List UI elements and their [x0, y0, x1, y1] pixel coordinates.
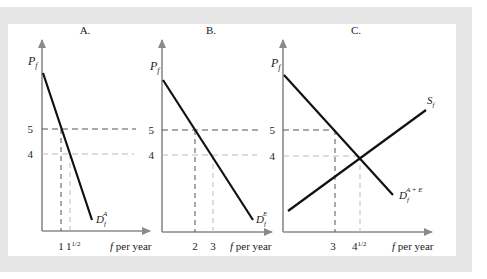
panel-a-ytick-5: 5	[28, 123, 34, 135]
panel-c-demand-label: DfA + E	[398, 186, 423, 204]
panel-a-demand-label: DfA	[95, 210, 108, 228]
panel-a-title: A.	[80, 24, 91, 36]
panel-b-y-label: Pf	[149, 59, 161, 75]
panel-a-demand-curve	[43, 73, 92, 220]
panel-c-ytick-5: 5	[270, 124, 276, 136]
panel-c-y-label: Pf	[270, 56, 282, 72]
panel-a-xtick-1half: 11/2	[66, 240, 81, 252]
panel-b-demand-label: DfE	[255, 210, 268, 228]
panel-c-supply-label: Sf	[427, 94, 436, 109]
panel-c-title: C.	[351, 24, 361, 36]
panel-c-xtick-4half: 41/2	[352, 240, 367, 252]
panel-c-demand-curve	[284, 75, 393, 195]
panel-b-x-label: f per year	[230, 240, 272, 252]
panel-b-title: B.	[206, 24, 216, 36]
panel-b: B. Pf DfE 5 4 2 3 f per year	[149, 24, 273, 252]
panel-b-demand-curve	[163, 80, 253, 220]
panel-c: C. Pf DfA + E Sf 5 4 3 41/2 f per year	[270, 24, 436, 252]
panel-c-xtick-3: 3	[330, 240, 336, 252]
supply-demand-diagram: A. Pf DfA 5 4 1 11/2 f per year B. Pf Df…	[0, 0, 487, 279]
panel-a-x-label: f per year	[110, 240, 152, 252]
panel-c-x-label: f per year	[392, 240, 434, 252]
panel-a: A. Pf DfA 5 4 1 11/2 f per year	[27, 24, 152, 252]
panel-a-y-label: Pf	[27, 54, 39, 70]
panel-a-ytick-4: 4	[28, 148, 34, 160]
panel-b-xtick-3: 3	[210, 240, 216, 252]
panel-c-ytick-4: 4	[270, 150, 276, 162]
panel-b-ytick-5: 5	[149, 124, 155, 136]
panel-a-xtick-1: 1	[58, 240, 64, 252]
panel-b-xtick-2: 2	[192, 240, 198, 252]
panel-b-ytick-4: 4	[149, 149, 155, 161]
